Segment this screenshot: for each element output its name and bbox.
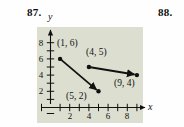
point-label-4-5: (4, 5) xyxy=(86,47,107,57)
figure-page: 87. 88. y x xyxy=(0,0,184,127)
x-tick-label-4: 4 xyxy=(83,111,95,121)
x-tick-label-6: 6 xyxy=(102,111,114,121)
point-label-9-4: (9, 4) xyxy=(114,78,135,88)
y-tick-label-2: 2 xyxy=(36,86,46,96)
exercise-number-88: 88. xyxy=(158,6,172,18)
y-tick-label-8: 8 xyxy=(36,38,46,48)
x-axis-label: x xyxy=(148,101,152,112)
y-tick-label-4: 4 xyxy=(36,70,46,80)
y-axis-label: y xyxy=(48,11,52,22)
point-label-5-2: (5, 2) xyxy=(66,91,87,101)
y-tick-label-6: 6 xyxy=(36,54,46,64)
x-tick-label-2: 2 xyxy=(64,111,76,121)
plot-background xyxy=(37,27,143,123)
point-label-1-6: (1, 6) xyxy=(57,38,78,48)
exercise-number-87: 87. xyxy=(27,6,41,18)
x-tick-label-8: 8 xyxy=(121,111,133,121)
